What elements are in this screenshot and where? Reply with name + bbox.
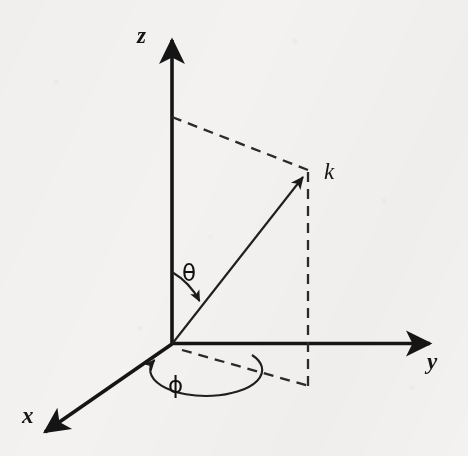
axis-label-y: y <box>427 350 437 373</box>
angle-label-theta: θ <box>182 262 196 285</box>
dashed-origin-to-projection <box>182 350 309 386</box>
angle-label-phi: ϕ <box>168 374 183 397</box>
vector-label-k: k <box>324 160 334 183</box>
spherical-coordinates-figure: z y x k θ ϕ <box>0 0 468 456</box>
dashed-z-to-k <box>172 117 308 170</box>
axis-label-x: x <box>22 404 34 427</box>
axis-label-z: z <box>137 24 146 47</box>
coordinate-diagram <box>0 0 468 456</box>
x-axis-line <box>45 344 172 432</box>
